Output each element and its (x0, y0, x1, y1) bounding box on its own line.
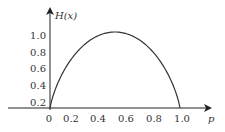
y-tick-labels: 0.2 0.4 0.6 0.8 1.0 (30, 30, 46, 108)
y-tick-label: 0.4 (30, 80, 46, 91)
x-tick-label: 0 (46, 113, 52, 124)
y-axis-label: H(x) (54, 10, 77, 21)
y-tick-label: 0.6 (30, 63, 46, 74)
x-axis-label: p (208, 113, 215, 124)
x-tick-label: 1.0 (174, 113, 190, 124)
entropy-curve (50, 32, 180, 108)
x-tick-label: 0.8 (146, 113, 162, 124)
x-tick-labels: 0 0.2 0.4 0.6 0.8 1.0 (46, 113, 190, 124)
x-tick-label: 0.2 (63, 113, 79, 124)
y-tick-label: 0.2 (30, 97, 46, 108)
y-tick-label: 0.8 (30, 47, 46, 58)
entropy-chart: H(x) p 0.2 0.4 0.6 0.8 1.0 0 0.2 0.4 0.6… (0, 0, 225, 132)
x-tick-label: 0.6 (118, 113, 134, 124)
x-tick-label: 0.4 (90, 113, 106, 124)
y-tick-label: 1.0 (30, 30, 46, 41)
